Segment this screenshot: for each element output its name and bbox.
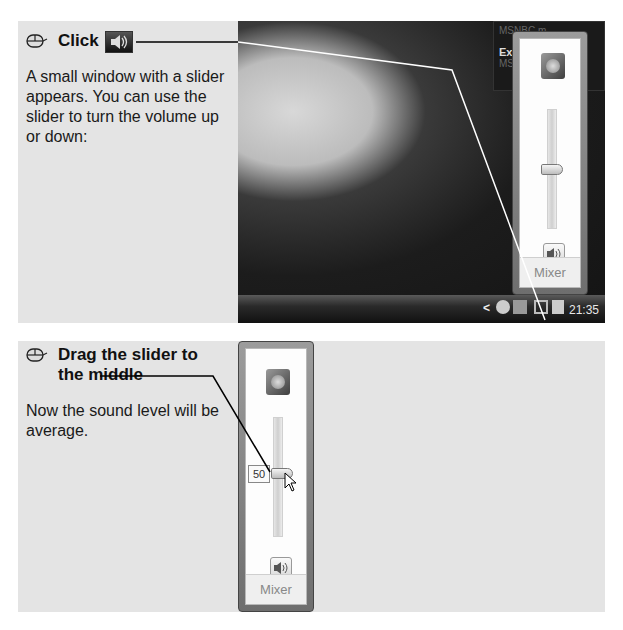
- network-icon[interactable]: [534, 300, 548, 314]
- step1-heading: Click: [26, 31, 236, 53]
- cursor-arrow-icon: [284, 472, 298, 492]
- volume-window: Mixer: [512, 31, 588, 295]
- step1-action: Click: [58, 31, 99, 51]
- step2-description: Now the sound level will be average.: [26, 401, 236, 441]
- speaker-volume-icon: [105, 31, 133, 53]
- step2-action: Drag the slider to the middle: [58, 345, 208, 385]
- volume-value-tooltip: 50: [248, 465, 270, 483]
- taskbar: < 21:35: [238, 295, 605, 323]
- step2-text: Drag the slider to the middle Now the so…: [26, 345, 236, 441]
- step2-heading: Drag the slider to the middle: [26, 345, 236, 385]
- clock[interactable]: 21:35: [569, 303, 599, 317]
- tray-chevron[interactable]: <: [483, 301, 490, 315]
- volume-window-body: Mixer: [519, 38, 581, 288]
- mixer-button[interactable]: Mixer: [246, 574, 306, 604]
- volume-slider-thumb[interactable]: [541, 164, 563, 175]
- volume-window-body: 50 Mixer: [245, 348, 307, 605]
- mixer-button[interactable]: Mixer: [520, 257, 580, 287]
- step1-description: A small window with a slider appears. Yo…: [26, 67, 236, 147]
- step1-text: Click A small window with a slider appea…: [26, 31, 236, 147]
- speaker-device-icon[interactable]: [541, 53, 565, 79]
- volume-tray-icon[interactable]: [552, 300, 564, 314]
- tray-icon-b[interactable]: [513, 300, 527, 314]
- desktop-screenshot: MSNBC.m Expe MSNBC Mixer < 21:35: [238, 21, 605, 323]
- mouse-icon: [26, 348, 48, 362]
- speaker-device-icon[interactable]: [266, 369, 290, 395]
- volume-window-2: 50 Mixer: [238, 341, 314, 612]
- tray-icon-a[interactable]: [496, 300, 510, 314]
- mouse-icon: [26, 34, 48, 48]
